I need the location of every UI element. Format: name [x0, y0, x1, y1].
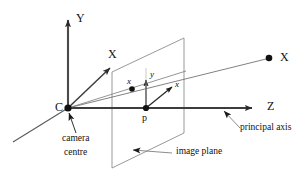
image-plane-leader [133, 150, 172, 153]
caption-camera-centre-line1: camera [62, 134, 89, 144]
principal-point-dot [143, 105, 149, 111]
caption-principal-axis: principal axis [240, 123, 291, 133]
label-principal-point: p [142, 113, 147, 123]
label-y-axis: Y [76, 12, 85, 24]
image-x-axis [146, 87, 172, 108]
principal-axis-leader [224, 111, 240, 128]
label-z-axis: Z [267, 100, 274, 112]
camera-centre-point [64, 104, 71, 111]
pinhole-camera-diagram: Y X Z C X p x y x camera centre image pl… [0, 0, 307, 179]
label-camera-centre-point: C [55, 101, 63, 113]
label-image-x-axis: x [175, 80, 179, 89]
camera-centre-leader [69, 113, 76, 133]
world-point-dot [266, 55, 273, 62]
ray-c-to-world-point [68, 59, 266, 108]
diagram-canvas [0, 0, 307, 179]
label-image-y-axis: y [150, 70, 154, 79]
x-axis-arrow [68, 68, 110, 108]
label-x-axis: X [108, 48, 117, 60]
label-image-point: x [127, 77, 131, 86]
image-plane-shape [112, 38, 184, 168]
caption-image-plane: image plane [176, 147, 222, 157]
label-world-point: X [280, 51, 289, 63]
caption-camera-centre-line2: centre [64, 148, 87, 158]
image-point-dot [129, 86, 135, 92]
